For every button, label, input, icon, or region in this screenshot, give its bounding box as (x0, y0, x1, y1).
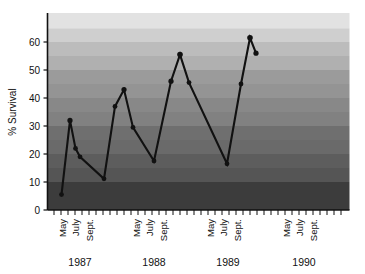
y-tick-label-20: 20 (29, 149, 41, 160)
survival-line-chart: 0 10 20 30 40 50 60 % Survival (0, 0, 365, 274)
band-45-50 (48, 70, 350, 84)
year-label-1988: 1988 (142, 256, 166, 268)
data-point (131, 125, 136, 130)
band-55-60 (48, 42, 350, 56)
data-point (113, 104, 118, 109)
month-label-1989-sept: Sept. (232, 219, 243, 241)
data-point (177, 52, 183, 58)
y-tick-label-10: 10 (29, 177, 41, 188)
band-20-25 (48, 140, 350, 154)
month-label-1988-july: July (144, 219, 155, 236)
data-point (67, 118, 72, 123)
y-tick-label-30: 30 (29, 121, 41, 132)
month-label-1987-sept: Sept. (84, 219, 95, 241)
year-label-1987: 1987 (68, 256, 92, 268)
band-0-10 (48, 182, 350, 210)
y-tick-label-40: 40 (29, 93, 41, 104)
month-label-1990-july: July (294, 219, 305, 236)
data-point (168, 79, 173, 84)
y-tick-label-60: 60 (29, 37, 41, 48)
month-label-1988-sept: Sept. (158, 219, 169, 241)
month-label-1987-may: May (57, 219, 68, 237)
data-point (78, 154, 83, 159)
data-point (102, 176, 107, 181)
band-10-15 (48, 168, 350, 182)
month-label-1989-may: May (205, 219, 216, 237)
data-point (253, 51, 258, 56)
data-point (225, 161, 230, 166)
y-axis-title: % Survival (7, 88, 18, 135)
data-point (187, 80, 192, 85)
data-point (59, 192, 64, 197)
data-point (152, 159, 157, 164)
data-point (239, 82, 244, 87)
data-point (121, 87, 126, 92)
band-60-65 (48, 28, 350, 42)
band-30-35 (48, 112, 350, 126)
data-point (73, 146, 78, 151)
year-label-1989: 1989 (216, 256, 240, 268)
month-label-1990-may: May (281, 219, 292, 237)
plot-background-bands (48, 13, 350, 210)
month-label-1989-july: July (218, 219, 229, 236)
y-tick-label-50: 50 (29, 65, 41, 76)
band-25-30 (48, 126, 350, 140)
month-label-1987-july: July (70, 219, 81, 236)
y-tick-label-0: 0 (34, 205, 40, 216)
band-50-55 (48, 56, 350, 70)
month-label-1990-sept: Sept. (308, 219, 319, 241)
data-point (247, 35, 253, 41)
band-40-45 (48, 84, 350, 98)
band-65-70 (48, 13, 350, 28)
month-label-1988-may: May (131, 219, 142, 237)
year-label-1990: 1990 (292, 256, 316, 268)
band-15-20 (48, 154, 350, 168)
